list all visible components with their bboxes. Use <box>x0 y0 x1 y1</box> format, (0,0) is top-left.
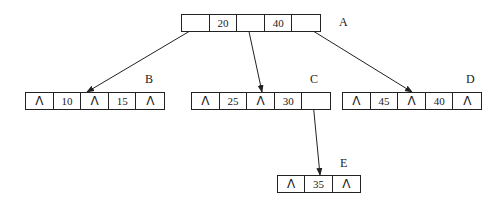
null-pointer-cell: Λ <box>343 93 371 109</box>
key-cell: 35 <box>305 176 332 192</box>
key-cell: 40 <box>265 15 293 31</box>
node-label-c: C <box>310 73 318 85</box>
key-cell: 45 <box>371 93 399 109</box>
null-pointer-cell: Λ <box>26 93 54 109</box>
edge-arrow-c-to-e <box>313 102 320 175</box>
edge-arrow-a-to-b <box>87 25 200 92</box>
null-pointer-cell: Λ <box>81 93 109 109</box>
null-pointer-cell: Λ <box>333 176 360 192</box>
null-pointer-cell: Λ <box>278 176 305 192</box>
key-cell: 10 <box>54 93 82 109</box>
node-label-a: A <box>339 16 348 28</box>
pointer-cell <box>302 93 330 109</box>
key-cell: 30 <box>275 93 303 109</box>
null-pointer-cell: Λ <box>398 93 426 109</box>
pointer-cell <box>292 15 320 31</box>
key-cell: 40 <box>426 93 454 109</box>
node-label-b: B <box>145 73 153 85</box>
tree-node-b: Λ10Λ15Λ <box>25 92 165 110</box>
null-pointer-cell: Λ <box>453 93 481 109</box>
node-label-e: E <box>340 157 347 169</box>
edge-arrow-a-to-c <box>248 27 262 92</box>
edge-arrow-a-to-d <box>305 26 412 92</box>
tree-node-c: Λ25Λ30 <box>191 92 331 110</box>
pointer-cell <box>237 15 265 31</box>
null-pointer-cell: Λ <box>136 93 164 109</box>
key-cell: 20 <box>210 15 238 31</box>
key-cell: 15 <box>109 93 137 109</box>
pointer-cell <box>182 15 210 31</box>
null-pointer-cell: Λ <box>247 93 275 109</box>
tree-node-a: 2040 <box>181 14 321 32</box>
null-pointer-cell: Λ <box>192 93 220 109</box>
node-label-d: D <box>466 73 475 85</box>
tree-node-e: Λ35Λ <box>277 175 361 193</box>
key-cell: 25 <box>220 93 248 109</box>
tree-node-d: Λ45Λ40Λ <box>342 92 482 110</box>
